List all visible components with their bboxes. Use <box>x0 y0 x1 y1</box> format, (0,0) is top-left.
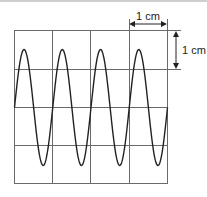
vertical-scale-arrow <box>167 31 181 70</box>
vertical-scale-label: 1 cm <box>182 44 206 56</box>
horizontal-scale-label: 1 cm <box>136 10 160 22</box>
oscilloscope-diagram <box>0 0 207 197</box>
